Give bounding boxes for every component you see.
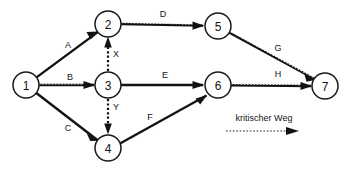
edge-label-b: B: [67, 72, 73, 82]
edge-label-h: H: [275, 69, 282, 79]
arrowhead-y-icon: [104, 124, 112, 135]
edge-d-line[interactable]: [121, 24, 203, 26]
node-5-label: 5: [215, 20, 222, 34]
node-2-label: 2: [105, 18, 112, 32]
arrowhead-e-icon: [193, 81, 205, 89]
edge-label-c: C: [65, 123, 72, 133]
node-3-label: 3: [105, 79, 112, 93]
edge-label-y: Y: [113, 102, 119, 112]
arrowhead-h-icon: [301, 82, 313, 90]
node-4[interactable]: 4: [95, 135, 121, 161]
node-7[interactable]: 7: [312, 73, 338, 99]
legend-label: kritischer Weg: [236, 113, 293, 123]
node-3[interactable]: 3: [95, 72, 121, 98]
network-diagram-svg: 1 2 3 4 5 6 7: [0, 0, 348, 172]
critical-overlay-f: [121, 99, 205, 146]
node-1-label: 1: [23, 79, 30, 93]
arrowhead-d-icon: [193, 22, 205, 30]
legend: kritischer Weg: [226, 113, 299, 135]
edge-label-a: A: [65, 40, 71, 50]
network-diagram-canvas: 1 2 3 4 5 6 7: [0, 0, 348, 172]
edge-f-line[interactable]: [120, 96, 207, 144]
edge-label-f: F: [147, 112, 153, 122]
edge-label-g: G: [274, 43, 281, 53]
arrowhead-c-icon: [87, 133, 99, 141]
edge-c-line[interactable]: [36, 93, 98, 141]
edge-label-x: X: [113, 49, 119, 59]
node-1[interactable]: 1: [13, 72, 39, 98]
node-7-label: 7: [322, 80, 329, 94]
edge-g-line[interactable]: [230, 33, 316, 80]
node-6[interactable]: 6: [205, 72, 231, 98]
node-5[interactable]: 5: [205, 13, 231, 39]
node-6-label: 6: [215, 79, 222, 93]
arrowhead-b-icon: [84, 81, 96, 89]
node-2[interactable]: 2: [95, 11, 121, 37]
edge-label-e: E: [162, 70, 168, 80]
edge-a-line[interactable]: [37, 32, 99, 78]
node-4-label: 4: [105, 142, 112, 156]
arrowhead-x-icon: [104, 37, 112, 48]
edge-label-d: D: [160, 9, 167, 19]
legend-arrowhead-icon: [286, 127, 299, 135]
edge-h-line[interactable]: [231, 85, 311, 86]
